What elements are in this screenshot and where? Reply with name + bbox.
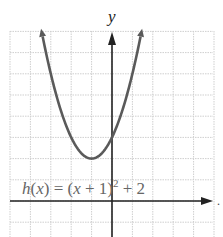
curve-arrow-right-icon: [137, 29, 144, 38]
y-axis-arrow-icon: [108, 32, 116, 45]
x-axis-arrow-icon: [201, 197, 213, 205]
curve-arrow-left-icon: [39, 29, 46, 38]
function-label: h(x) = (x + 1)2 + 2: [22, 177, 145, 198]
graph: y h(x) = (x + 1)2 + 2 .: [0, 0, 223, 237]
x-axis-dot: .: [217, 194, 220, 208]
y-axis-label: y: [106, 7, 116, 26]
